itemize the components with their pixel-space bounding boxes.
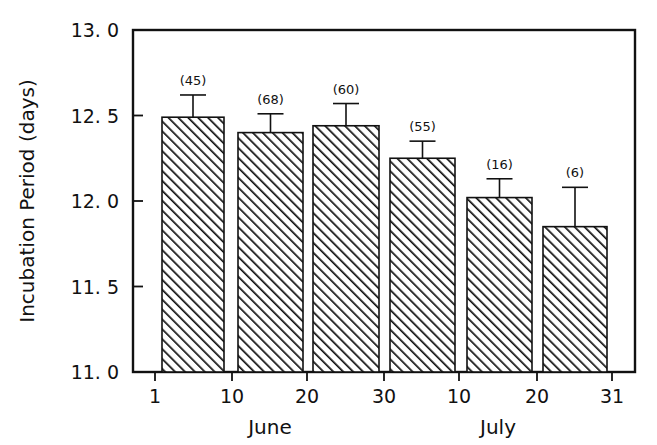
x-tick-label: 30	[372, 385, 396, 407]
sample-size-label: (60)	[333, 82, 360, 97]
incubation-period-bar-chart: 11. 011. 512. 012. 513. 0 1102030102031 …	[0, 0, 657, 445]
x-axis-group-labels: JuneJuly	[246, 415, 516, 439]
month-label: June	[246, 415, 292, 439]
y-tick-label: 11. 0	[71, 361, 119, 383]
sample-size-label: (16)	[486, 157, 513, 172]
y-tick-label: 13. 0	[71, 19, 119, 41]
x-tick-label: 31	[600, 385, 624, 407]
y-tick-label: 11. 5	[71, 276, 119, 298]
y-axis-title: Incubation Period (days)	[15, 79, 39, 322]
sample-size-label: (6)	[566, 165, 584, 180]
x-tick-label: 20	[525, 385, 549, 407]
x-tick-label: 20	[295, 385, 319, 407]
x-axis-ticks: 1102030102031	[149, 372, 624, 407]
y-tick-label: 12. 5	[71, 105, 119, 127]
x-tick-label: 10	[220, 385, 244, 407]
sample-size-label: (55)	[409, 119, 436, 134]
x-tick-label: 1	[149, 385, 161, 407]
bar	[467, 198, 532, 372]
y-tick-label: 12. 0	[71, 190, 119, 212]
bar	[390, 158, 455, 372]
chart-svg: 11. 011. 512. 012. 513. 0 1102030102031 …	[0, 0, 657, 445]
bar	[543, 227, 607, 372]
x-tick-label: 10	[447, 385, 471, 407]
sample-size-label: (68)	[257, 92, 284, 107]
bar	[238, 133, 303, 372]
month-label: July	[478, 415, 516, 439]
sample-size-label: (45)	[180, 73, 207, 88]
bar	[162, 117, 224, 372]
bar	[313, 126, 379, 372]
